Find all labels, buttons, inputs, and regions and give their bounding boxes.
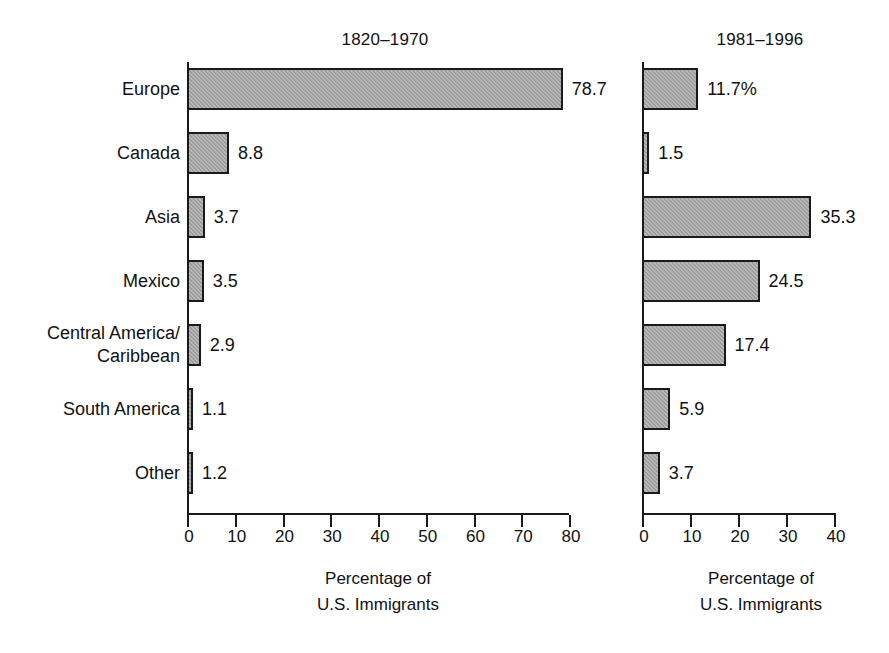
axis-tick	[330, 515, 332, 527]
axis-tick	[283, 515, 285, 527]
bar	[642, 68, 698, 110]
bar	[642, 196, 811, 238]
axis-tick	[642, 515, 644, 527]
axis-tick	[834, 515, 836, 527]
bar	[187, 68, 563, 110]
axis-tick	[738, 515, 740, 527]
bar	[187, 132, 229, 174]
axis-tick	[786, 515, 788, 527]
panel-1981-1996: 1981–1996 11.7%1.535.324.517.45.93.7 010…	[600, 0, 889, 653]
bar-value-label: 1.2	[202, 452, 227, 494]
bar-value-label: 3.7	[669, 452, 694, 494]
axis-tick	[690, 515, 692, 527]
bar	[187, 260, 204, 302]
axis-tick-label: 0	[167, 527, 211, 547]
bar-value-label: 3.5	[213, 260, 238, 302]
immigration-origin-bar-chart-figure: EuropeCanadaAsiaMexicoCentral America/Ca…	[0, 0, 889, 653]
axis-tick-label: 10	[670, 527, 714, 547]
bar-value-label: 1.5	[658, 132, 683, 174]
bar	[187, 196, 205, 238]
axis-tick-label: 30	[310, 527, 354, 547]
axis-tick-label: 60	[454, 527, 498, 547]
bar-value-label: 5.9	[679, 388, 704, 430]
axis-tick	[378, 515, 380, 527]
axis-tick-label: 10	[215, 527, 259, 547]
bar-value-label: 11.7%	[707, 68, 757, 110]
bar	[642, 324, 726, 366]
axis-tick-label: 30	[766, 527, 810, 547]
axis-tick-label: 40	[814, 527, 858, 547]
bar-value-label: 35.3	[820, 196, 855, 238]
value-axis-caption-right: Percentage of U.S. Immigrants	[641, 566, 881, 618]
panel-title-left: 1820–1970	[285, 30, 485, 50]
bar-value-label: 8.8	[238, 132, 263, 174]
panel-1820-1970: 1820–1970 78.78.83.73.52.91.11.2 0102030…	[0, 0, 600, 653]
axis-tick	[474, 515, 476, 527]
axis-tick-label: 0	[622, 527, 666, 547]
bar-value-label: 1.1	[202, 388, 227, 430]
axis-tick-label: 20	[718, 527, 762, 547]
bar	[187, 452, 193, 494]
axis-tick	[235, 515, 237, 527]
bar-value-label: 24.5	[769, 260, 804, 302]
axis-tick-label: 50	[406, 527, 450, 547]
axis-tick	[426, 515, 428, 527]
axis-tick-label: 20	[263, 527, 307, 547]
axis-tick-label: 40	[358, 527, 402, 547]
value-axis-caption-left: Percentage of U.S. Immigrants	[258, 566, 498, 618]
bar-value-label: 17.4	[735, 324, 770, 366]
bar-value-label: 2.9	[210, 324, 235, 366]
axis-tick	[521, 515, 523, 527]
panel-title-right: 1981–1996	[660, 30, 860, 50]
bar	[642, 132, 649, 174]
axis-tick-label: 70	[501, 527, 545, 547]
bar	[642, 452, 660, 494]
bar	[187, 388, 193, 430]
axis-tick	[569, 515, 571, 527]
bar	[642, 260, 760, 302]
bar	[642, 388, 670, 430]
bar-value-label: 3.7	[214, 196, 239, 238]
bar	[187, 324, 201, 366]
axis-tick	[187, 515, 189, 527]
axis-tick-label: 80	[549, 527, 593, 547]
